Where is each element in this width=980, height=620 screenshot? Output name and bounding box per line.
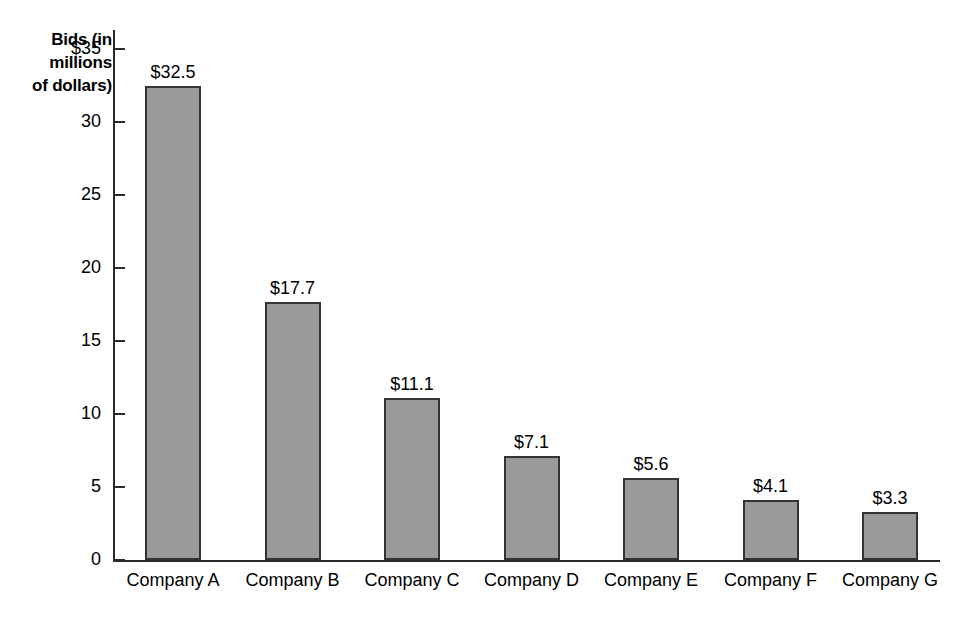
y-axis-title-line-3: of dollars): [8, 74, 112, 97]
x-axis-category-label: Company B: [245, 570, 339, 591]
bar-value-label: $11.1: [390, 374, 434, 394]
y-tick-label: 15: [81, 330, 101, 350]
y-tick-mark: [115, 48, 125, 50]
bar-rect[interactable]: [743, 500, 799, 560]
bar-value-label: $17.7: [270, 278, 315, 298]
y-tick-mark: [115, 267, 125, 269]
bar-rect[interactable]: [623, 478, 679, 560]
bar-value-label: $5.6: [633, 454, 668, 474]
bar-value-label: $32.5: [150, 62, 195, 82]
y-tick-mark: [115, 486, 125, 488]
bar-chart: Bids (in millions of dollars) $353025201…: [0, 0, 980, 620]
bar-rect[interactable]: [265, 302, 321, 560]
y-tick-label: $35: [71, 38, 101, 58]
y-tick-label: 30: [81, 111, 101, 131]
y-tick-mark: [115, 340, 125, 342]
y-tick-label: 10: [81, 403, 101, 423]
y-tick-label: 25: [81, 184, 101, 204]
x-axis-line: [113, 560, 940, 562]
y-tick-label: 5: [91, 476, 101, 496]
bar-value-label: $4.1: [753, 476, 788, 496]
x-axis-category-label: Company C: [364, 570, 459, 591]
plot-area: $35302520151050 $32.5$17.7$11.1$7.1$5.6$…: [113, 30, 940, 562]
bar-rect[interactable]: [145, 86, 201, 561]
bar-rect[interactable]: [862, 512, 918, 560]
y-tick-mark: [115, 413, 125, 415]
bar-value-label: $7.1: [514, 432, 549, 452]
bar-rect[interactable]: [504, 456, 560, 560]
x-axis-category-label: Company A: [126, 570, 219, 591]
y-tick-label: 20: [81, 257, 101, 277]
bar-rect[interactable]: [384, 398, 440, 560]
x-axis-category-label: Company D: [484, 570, 579, 591]
y-axis-line: [113, 30, 115, 562]
y-tick-mark: [115, 559, 125, 561]
y-tick-label: 0: [91, 549, 101, 569]
x-axis-category-label: Company E: [604, 570, 698, 591]
y-tick-mark: [115, 194, 125, 196]
x-axis-category-label: Company G: [842, 570, 938, 591]
y-tick-mark: [115, 121, 125, 123]
x-axis-category-label: Company F: [724, 570, 817, 591]
bar-value-label: $3.3: [872, 488, 907, 508]
